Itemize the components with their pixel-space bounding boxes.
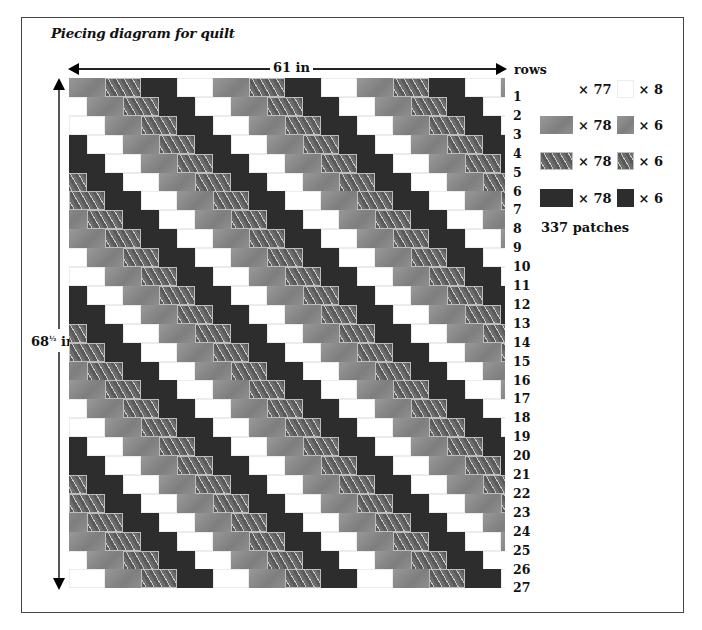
legend-item-dark: × 78 × 6: [540, 189, 668, 207]
white-patch: [195, 399, 231, 418]
pattern-patch: [429, 116, 465, 135]
dark-patch: [231, 475, 267, 494]
dark-patch: [267, 362, 303, 381]
white-patch: [321, 380, 357, 399]
height-label-number: 68: [31, 334, 49, 349]
gray-patch: [267, 437, 303, 456]
row-label: 18: [513, 410, 537, 426]
dark-patch: [393, 494, 429, 513]
pattern-patch: [249, 380, 285, 399]
dark-patch: [195, 135, 231, 154]
dark-patch: [285, 78, 321, 97]
gray-patch: [213, 78, 249, 97]
white-patch: [321, 229, 357, 248]
white-patch: [213, 569, 249, 588]
row-label: 25: [513, 543, 537, 559]
gray-patch: [357, 532, 393, 551]
pattern-patch: [87, 362, 123, 381]
gray-patch: [339, 210, 375, 229]
dark-patch: [357, 305, 393, 324]
gray-patch: [285, 456, 321, 475]
gray-patch: [357, 78, 393, 97]
dark-patch: [465, 267, 501, 286]
dark-patch: [303, 399, 339, 418]
pattern-patch: [105, 229, 141, 248]
pattern-patch: [447, 135, 483, 154]
gray-patch: [501, 380, 505, 399]
white-patch: [231, 135, 267, 154]
dark-patch: [447, 551, 483, 570]
gray-patch: [69, 362, 87, 381]
pattern-full-patch-swatch: [540, 152, 573, 170]
dark-patch: [429, 229, 465, 248]
dark-full-patch-swatch: [540, 189, 573, 207]
gray-patch: [87, 399, 123, 418]
pattern-patch: [123, 248, 159, 267]
white-half-count: × 8: [639, 82, 663, 97]
height-label-fraction: ½: [49, 334, 56, 343]
gray-patch: [267, 286, 303, 305]
row-label: 24: [513, 524, 537, 540]
dark-patch: [159, 551, 195, 570]
white-patch: [159, 362, 195, 381]
white-patch: [141, 191, 177, 210]
dark-patch: [123, 513, 159, 532]
white-patch: [411, 173, 447, 192]
dark-patch: [429, 380, 465, 399]
gray-patch: [375, 551, 411, 570]
dark-patch: [357, 154, 393, 173]
row-label: 20: [513, 448, 537, 464]
pattern-patch: [177, 456, 213, 475]
pattern-patch: [429, 267, 465, 286]
quilt-row: [69, 267, 505, 286]
pattern-patch: [249, 229, 285, 248]
gray-patch: [501, 532, 505, 551]
white-patch: [213, 116, 249, 135]
pattern-patch: [105, 532, 141, 551]
gray-patch: [375, 399, 411, 418]
white-patch: [285, 494, 321, 513]
figure-title: Piecing diagram for quilt: [51, 25, 235, 41]
row-label: 27: [513, 580, 537, 596]
pattern-patch: [195, 475, 231, 494]
gray-patch: [411, 437, 447, 456]
dark-patch: [231, 324, 267, 343]
dark-patch: [105, 191, 141, 210]
white-patch: [123, 475, 159, 494]
gray-patch: [321, 343, 357, 362]
pattern-patch: [141, 116, 177, 135]
row-label: 1: [513, 89, 537, 105]
gray-patch: [141, 456, 177, 475]
dark-patch: [213, 305, 249, 324]
pattern-patch: [285, 116, 321, 135]
dark-patch: [159, 248, 195, 267]
dark-patch: [339, 135, 375, 154]
white-patch: [429, 191, 465, 210]
pattern-patch: [177, 154, 213, 173]
quilt-row: [69, 229, 505, 248]
arrow-left-icon: [68, 63, 79, 75]
gray-patch: [69, 380, 105, 399]
pattern-patch: [267, 399, 303, 418]
gray-patch: [87, 97, 123, 116]
gray-patch: [213, 380, 249, 399]
quilt-row: [69, 362, 505, 381]
pattern-patch: [141, 267, 177, 286]
row-label: 21: [513, 467, 537, 483]
dark-patch: [105, 494, 141, 513]
gray-patch: [249, 267, 285, 286]
white-patch: [483, 248, 505, 267]
dark-patch: [213, 154, 249, 173]
gray-full-count: × 78: [578, 118, 612, 133]
pattern-patch: [501, 494, 505, 513]
row-label: 14: [513, 335, 537, 351]
pattern-patch: [483, 324, 505, 343]
white-patch: [231, 437, 267, 456]
gray-patch: [447, 173, 483, 192]
white-patch: [357, 418, 393, 437]
gray-patch: [231, 97, 267, 116]
pattern-patch: [69, 173, 87, 192]
gray-patch: [429, 305, 465, 324]
pattern-patch: [69, 494, 105, 513]
gray-patch: [105, 418, 141, 437]
